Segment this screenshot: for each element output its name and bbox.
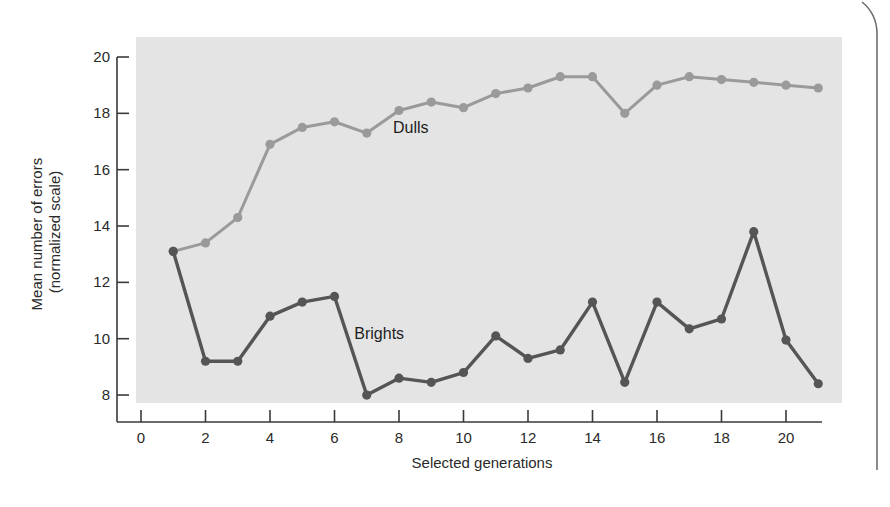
data-point [394, 106, 403, 115]
x-tick-label: 0 [137, 429, 145, 446]
data-point [717, 314, 726, 323]
data-point [330, 117, 339, 126]
series-label-dulls: Dulls [393, 119, 429, 136]
data-point [265, 140, 274, 149]
data-point [233, 213, 242, 222]
x-axis-title: Selected generations [412, 454, 553, 471]
y-axis-title-line-2: (normalized scale) [46, 171, 63, 294]
data-point [523, 354, 532, 363]
data-point [394, 374, 403, 383]
data-point [233, 357, 242, 366]
data-point [523, 83, 532, 92]
data-point [652, 297, 661, 306]
data-point [749, 227, 758, 236]
data-point [717, 75, 726, 84]
y-tick-label: 20 [93, 48, 110, 65]
data-point [814, 83, 823, 92]
data-point [427, 97, 436, 106]
data-point [427, 378, 436, 387]
data-point [652, 81, 661, 90]
data-point [201, 238, 210, 247]
y-tick-label: 16 [93, 161, 110, 178]
data-point [749, 78, 758, 87]
x-axis: 02468101214161820 [117, 410, 822, 446]
y-axis-title-line-1: Mean number of errors [28, 158, 45, 311]
plot-background [136, 37, 842, 403]
y-tick-label: 8 [102, 386, 110, 403]
x-tick-label: 4 [266, 429, 274, 446]
data-point [330, 292, 339, 301]
x-tick-label: 2 [201, 429, 209, 446]
data-point [362, 128, 371, 137]
data-point [620, 378, 629, 387]
y-tick-label: 14 [93, 217, 110, 234]
x-tick-label: 6 [330, 429, 338, 446]
data-point [362, 390, 371, 399]
data-point [814, 379, 823, 388]
data-point [588, 72, 597, 81]
data-point [298, 297, 307, 306]
y-tick-label: 12 [93, 273, 110, 290]
data-point [588, 297, 597, 306]
data-point [298, 123, 307, 132]
data-point [459, 103, 468, 112]
data-point [685, 72, 694, 81]
x-tick-label: 18 [713, 429, 730, 446]
data-point [169, 247, 178, 256]
data-point [781, 81, 790, 90]
y-tick-label: 18 [93, 104, 110, 121]
data-point [685, 324, 694, 333]
data-point [620, 109, 629, 118]
line-chart: 8101214161820 02468101214161820 DullsBri… [0, 0, 890, 507]
x-tick-label: 8 [395, 429, 403, 446]
y-axis: 8101214161820 [93, 48, 129, 422]
data-point [459, 368, 468, 377]
x-tick-label: 16 [649, 429, 666, 446]
x-tick-label: 20 [778, 429, 795, 446]
data-point [781, 336, 790, 345]
data-point [491, 89, 500, 98]
data-point [556, 72, 565, 81]
data-point [556, 345, 565, 354]
data-point [491, 331, 500, 340]
y-tick-label: 10 [93, 330, 110, 347]
data-point [265, 312, 274, 321]
frame-bracket [862, 2, 877, 470]
data-point [201, 357, 210, 366]
x-tick-label: 10 [455, 429, 472, 446]
x-tick-label: 14 [584, 429, 601, 446]
y-axis-title: Mean number of errors (normalized scale) [28, 154, 63, 311]
x-tick-label: 12 [520, 429, 537, 446]
series-label-brights: Brights [354, 325, 404, 342]
